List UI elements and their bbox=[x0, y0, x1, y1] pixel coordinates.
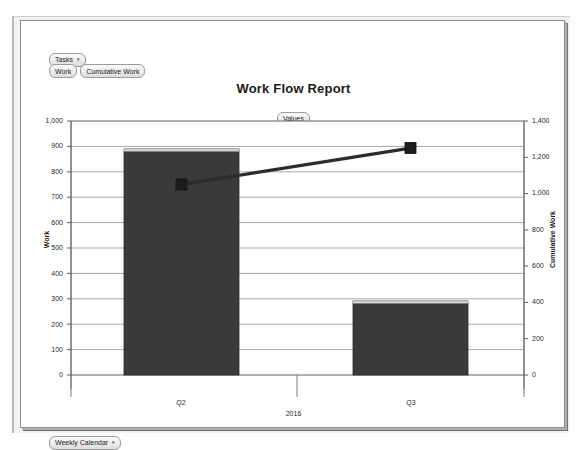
left-tick-0: 0 bbox=[29, 371, 63, 378]
x-tick-label-q3: Q3 bbox=[381, 399, 441, 406]
left-tick-1000: 1,000 bbox=[29, 117, 63, 124]
chevron-down-icon: ▾ bbox=[112, 440, 115, 445]
x-tick-label-q2: Q2 bbox=[151, 399, 211, 406]
chart-svg bbox=[21, 21, 566, 429]
left-tick-300: 300 bbox=[29, 295, 63, 302]
chart-plot-area: 1,000 900 800 700 600 500 400 300 200 10… bbox=[21, 21, 566, 429]
category-separators bbox=[71, 375, 524, 397]
left-tick-200: 200 bbox=[29, 321, 63, 328]
left-tick-600: 600 bbox=[29, 219, 63, 226]
x-axis-group-label: 2016 bbox=[21, 410, 566, 417]
right-tick-1400: 1,400 bbox=[532, 117, 566, 124]
calendar-dropdown-row: Weekly Calendar ▾ bbox=[49, 431, 121, 450]
left-tick-800: 800 bbox=[29, 168, 63, 175]
report-window: Tasks ▾ Work Cumulative Work Work Flow R… bbox=[20, 20, 565, 428]
right-tick-0: 0 bbox=[532, 371, 566, 378]
left-axis-ticks bbox=[67, 121, 71, 389]
weekly-calendar-label: Weekly Calendar bbox=[55, 439, 108, 446]
right-tick-1000: 1,000 bbox=[532, 189, 566, 196]
left-tick-700: 700 bbox=[29, 193, 63, 200]
weekly-calendar-dropdown[interactable]: Weekly Calendar ▾ bbox=[49, 436, 121, 450]
y2-axis-title: Cumulative Work bbox=[549, 211, 556, 268]
cumulative-marker-q2[interactable] bbox=[176, 179, 187, 190]
right-tick-1200: 1,200 bbox=[532, 153, 566, 160]
left-tick-100: 100 bbox=[29, 346, 63, 353]
cumulative-marker-q3[interactable] bbox=[405, 143, 416, 154]
y-axis-title: Work bbox=[43, 231, 50, 248]
right-axis-ticks bbox=[524, 121, 528, 389]
bar-q2-cap bbox=[124, 149, 239, 152]
left-tick-400: 400 bbox=[29, 270, 63, 277]
bar-q3[interactable] bbox=[353, 301, 468, 375]
bar-q3-cap bbox=[353, 301, 468, 304]
right-tick-200: 200 bbox=[532, 335, 566, 342]
right-tick-400: 400 bbox=[532, 298, 566, 305]
left-tick-900: 900 bbox=[29, 142, 63, 149]
